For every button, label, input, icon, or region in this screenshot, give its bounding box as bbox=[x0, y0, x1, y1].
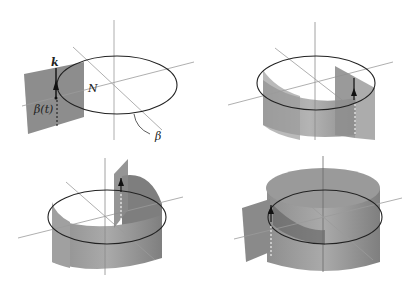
panel-top-left: k N β(t) β bbox=[22, 20, 194, 143]
figure-canvas: k N β(t) β bbox=[0, 0, 418, 283]
panel-top-right bbox=[228, 22, 393, 140]
normal-plane bbox=[335, 66, 355, 138]
label-beta: β bbox=[154, 130, 161, 143]
panel-bottom-right bbox=[234, 156, 402, 272]
panel-bottom-left bbox=[18, 158, 183, 275]
normal-plane bbox=[242, 199, 270, 262]
point-beta-t bbox=[55, 97, 58, 100]
label-N: N bbox=[87, 82, 98, 95]
label-beta-t: β(t) bbox=[33, 103, 53, 116]
label-k: k bbox=[51, 56, 59, 69]
